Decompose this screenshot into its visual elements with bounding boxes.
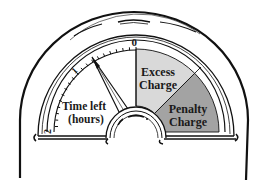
penalty-charge-label-line1: Penalty [169,102,208,116]
housing-top-slot-inner [120,23,148,25]
meter-drawing: 0 1 2 Time left (hours) Excess Charge Pe… [0,0,267,192]
hub-rivet [146,118,148,120]
penalty-charge-label-line2: Charge [169,115,208,129]
scale-label-zero: 0 [132,36,138,48]
zone-boundary-extension [195,67,201,73]
parking-meter-diagram: 0 1 2 Time left (hours) Excess Charge Pe… [0,0,267,192]
hub-foot-left [106,139,108,144]
scale-label-two: 2 [42,129,53,134]
excess-charge-label-line1: Excess [141,65,175,79]
excess-charge-label-line2: Charge [139,78,178,92]
bezel-foot-left [34,134,36,141]
time-left-label-line1: Time left [62,100,106,112]
housing-top-slot [118,20,150,22]
bezel-foot-right [235,134,238,141]
hub-foot-right [159,140,163,144]
time-left-label-line2: (hours) [68,113,104,126]
